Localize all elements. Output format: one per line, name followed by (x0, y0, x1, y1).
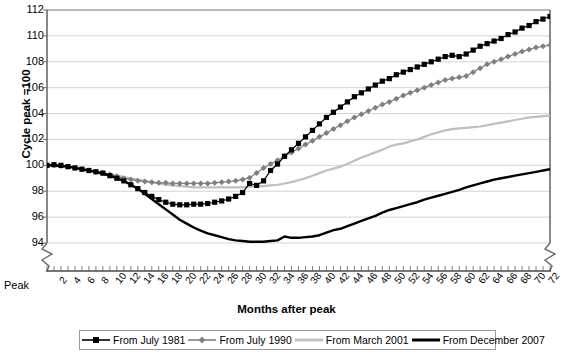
peak-origin-label: Peak (4, 279, 29, 291)
legend-swatch-3 (294, 334, 324, 346)
legend-label: From December 2007 (443, 334, 545, 346)
legend-item: From March 2001 (293, 331, 410, 349)
legend-item: From July 1981 (80, 331, 186, 349)
legend-label: From July 1981 (113, 334, 185, 346)
legend-item: From December 2007 (410, 331, 546, 349)
legend-swatch-2 (187, 334, 217, 346)
legend-swatch-4 (411, 334, 441, 346)
legend-label: From March 2001 (326, 334, 409, 346)
chart-legend: From July 1981From July 1990From March 2… (79, 330, 496, 350)
x-axis-title: Months after peak (0, 303, 573, 315)
legend-item: From July 1990 (186, 331, 292, 349)
chart-container: Cycle peak =100 949698100102104106108110… (0, 0, 573, 357)
plot-area (0, 0, 573, 300)
legend-label: From July 1990 (219, 334, 291, 346)
legend-swatch-1 (81, 334, 111, 346)
